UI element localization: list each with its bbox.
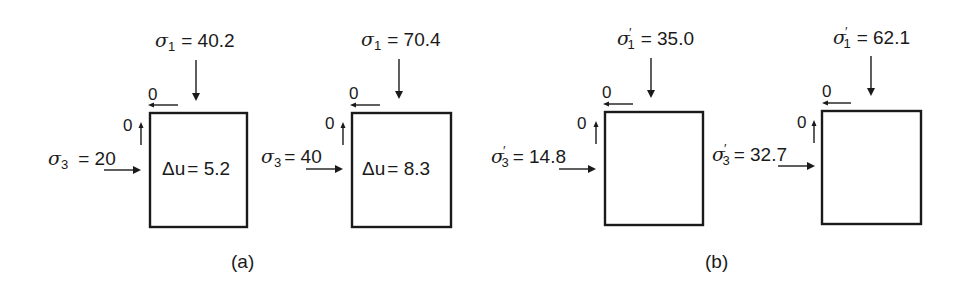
pore-pressure-label: Δu= 5.2 xyxy=(162,158,230,179)
sigma1-arrow-icon xyxy=(647,58,655,98)
pore-pressure-label: Δu= 8.3 xyxy=(362,158,430,179)
shear-left-label: 0 xyxy=(797,113,806,132)
sigma3-label: σ3= 20 xyxy=(48,147,116,172)
sigma3-label: σ′3= 14.8 xyxy=(491,143,566,170)
sigma3-label: σ3= 40 xyxy=(261,145,322,170)
shear-left-arrow-icon xyxy=(812,120,817,143)
shear-left-arrow-icon xyxy=(139,122,144,145)
shear-top-label: 0 xyxy=(349,84,358,103)
sigma1-label: σ1= 70.4 xyxy=(361,28,441,53)
sigma3-label: σ′3= 32.7 xyxy=(712,141,787,168)
shear-top-arrow-icon xyxy=(148,103,178,108)
stress-element-diagram: σ1= 40.2 0 0 σ3= 20 Δu= 5.2 xyxy=(0,0,966,285)
panel-label-b: (b) xyxy=(705,251,728,272)
shear-top-label: 0 xyxy=(602,83,611,102)
element-b2: σ′1= 62.1 0 0 σ′3= 32.7 xyxy=(712,24,921,224)
shear-left-arrow-icon xyxy=(341,122,346,145)
shear-top-arrow-icon xyxy=(350,103,380,108)
sigma1-arrow-icon xyxy=(867,56,875,96)
element-a1: σ1= 40.2 0 0 σ3= 20 Δu= 5.2 xyxy=(48,29,247,227)
shear-top-label: 0 xyxy=(822,82,831,101)
sigma1-arrow-icon xyxy=(395,59,403,99)
shear-top-arrow-icon xyxy=(603,102,633,107)
shear-top-arrow-icon xyxy=(822,101,851,106)
shear-left-label: 0 xyxy=(577,114,586,133)
shear-left-arrow-icon xyxy=(594,121,599,144)
sigma1-arrow-icon xyxy=(192,60,200,101)
panel-label-a: (a) xyxy=(231,251,254,272)
element-b1: σ′1= 35.0 0 0 σ′3= 14.8 xyxy=(491,25,703,225)
shear-left-label: 0 xyxy=(325,114,334,133)
shear-left-label: 0 xyxy=(123,116,132,135)
shear-top-label: 0 xyxy=(148,85,157,104)
sigma1-label: σ′1= 62.1 xyxy=(833,24,910,51)
soil-element-box xyxy=(822,111,921,224)
element-a2: σ1= 70.4 0 0 σ3= 40 Δu= 8.3 xyxy=(261,28,451,227)
sigma1-label: σ1= 40.2 xyxy=(155,29,235,54)
sigma1-label: σ′1= 35.0 xyxy=(617,25,694,52)
soil-element-box xyxy=(605,112,703,225)
